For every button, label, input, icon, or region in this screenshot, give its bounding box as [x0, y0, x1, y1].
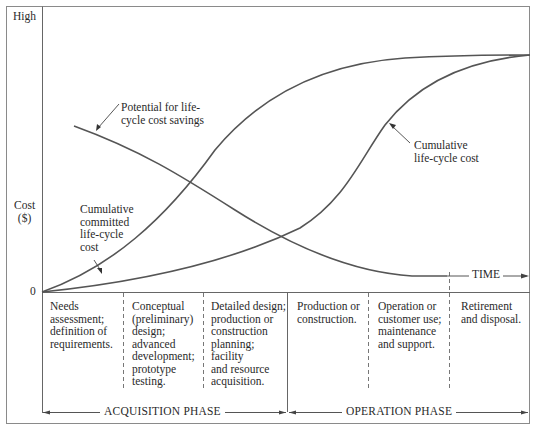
operation-phase-label: OPERATION PHASE: [342, 405, 456, 417]
arrow-head-left: [289, 411, 296, 415]
arrow-head-right: [521, 411, 528, 415]
y-axis-title: Cost ($): [14, 199, 35, 225]
pointer-head: [97, 268, 102, 274]
stage-retirement: Retirement and disposal.: [461, 300, 521, 325]
label-committed-cost: Cumulative committed life-cycle cost: [80, 203, 134, 253]
x-axis-time-label: TIME: [469, 268, 503, 280]
acquisition-phase-label: ACQUISITION PHASE: [100, 405, 225, 417]
pointer-cumulative-cost: [392, 126, 410, 143]
label-cumulative-cost: Cumulative life-cycle cost: [414, 139, 479, 164]
stage-operation: Operation or customer use; maintenance a…: [378, 300, 442, 350]
y-axis-high-label: High: [13, 10, 36, 23]
arrow-head-left: [43, 411, 50, 415]
curve-cumulative-committed-cost: [42, 55, 530, 292]
label-potential-savings: Potential for life- cycle cost savings: [121, 101, 204, 126]
y-axis-zero-label: 0: [30, 285, 36, 298]
time-arrow-head: [521, 274, 529, 279]
pointer-potential-savings: [98, 104, 119, 128]
arrow-head-right: [279, 411, 286, 415]
stage-detailed-design: Detailed design; production or construct…: [211, 300, 286, 388]
stage-production: Production or construction.: [297, 300, 360, 325]
curve-potential-savings: [74, 126, 447, 276]
stage-conceptual-design: Conceptual (preliminary) design; advance…: [132, 300, 195, 388]
pointer-head: [389, 123, 396, 129]
stage-needs-assessment: Needs assessment; definition of requirem…: [50, 300, 113, 350]
